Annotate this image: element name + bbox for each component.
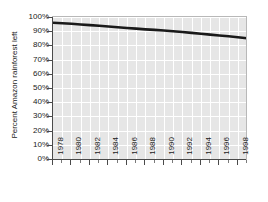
x-axis-tick-label: 1998 [241,137,250,167]
x-axis-tick-mark [107,160,108,165]
x-axis-tick-mark [181,160,182,165]
plot-frame-top [52,16,247,17]
x-axis-tick-mark [237,160,238,165]
x-axis-tick-mark [52,160,53,165]
x-axis-tick-label: 1990 [167,137,176,167]
line-chart: Percent Amazon rainforest left 0%10%20%3… [0,0,268,202]
y-axis-tick-label: 70% [16,56,49,64]
x-axis-tick-label: 1980 [74,137,83,167]
x-axis-tick-label: 1984 [111,137,120,167]
y-axis-tick-label: 80% [16,41,49,49]
y-axis-tick-labels: 0%10%20%30%40%50%60%70%80%90%100% [16,11,49,161]
y-axis-tick-label: 50% [16,84,49,92]
y-axis-tick-label: 40% [16,98,49,106]
y-axis-tick-label: 10% [16,141,49,149]
x-axis-tick-mark [144,160,145,165]
y-axis-tick-label: 20% [16,127,49,135]
x-axis-tick-label: 1992 [185,137,194,167]
y-axis-tick-label: 0% [16,155,49,163]
x-axis-tick-label: 1994 [204,137,213,167]
x-axis-tick-label: 1986 [130,137,139,167]
x-axis-tick-mark [89,160,90,165]
y-axis-tick-label: 90% [16,27,49,35]
y-axis-tick-label: 100% [16,13,49,21]
x-axis-tick-label: 1988 [148,137,157,167]
x-axis-tick-label: 1978 [56,137,65,167]
x-axis-tick-mark [163,160,164,165]
y-axis-tick-label: 60% [16,70,49,78]
x-axis-tick-mark [218,160,219,165]
x-axis-tick-mark [70,160,71,165]
x-axis-tick-mark [200,160,201,165]
y-axis-tick-label: 30% [16,112,49,120]
x-axis-tick-label: 1996 [222,137,231,167]
x-axis-tick-mark [126,160,127,165]
x-axis-tick-label: 1982 [93,137,102,167]
